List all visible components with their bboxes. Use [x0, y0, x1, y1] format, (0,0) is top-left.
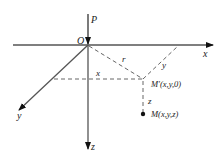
coordinate-diagram: O P x y z r x y z M′(x,y,0) M(x,y,z) [0, 0, 223, 156]
force-p-label: P [90, 14, 97, 25]
point-m [141, 112, 145, 116]
y-segment-label: y [161, 60, 166, 70]
x-segment-label: x [95, 68, 100, 78]
y-axis [19, 45, 88, 110]
z-segment-label: z [147, 96, 152, 106]
y-axis-label: y [16, 110, 22, 121]
y-segment [143, 46, 178, 79]
r-label: r [122, 54, 126, 64]
z-axis-label: z [90, 141, 95, 152]
point-m-label: M(x,y,z) [150, 109, 179, 119]
projection-point-label: M′(x,y,0) [150, 79, 181, 89]
origin-label: O [77, 35, 84, 46]
x-axis-label: x [202, 48, 208, 59]
